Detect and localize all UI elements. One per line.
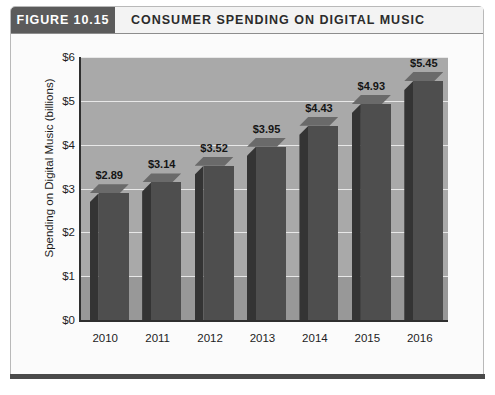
bar-front-face [99, 193, 129, 320]
bar-top-face [195, 157, 234, 166]
x-axis-tick-label: 2010 [79, 332, 131, 344]
figure-screenshot: FIGURE 10.15 CONSUMER SPENDING ON DIGITA… [0, 0, 495, 395]
bar [247, 138, 286, 320]
bar-value-label: $5.45 [398, 57, 449, 69]
bar-top-face [352, 95, 391, 104]
figure-header: FIGURE 10.15 CONSUMER SPENDING ON DIGITA… [11, 7, 483, 34]
y-axis-ticks: $0$1$2$3$4$5$6 [41, 57, 75, 320]
y-axis-tick-label: $3 [45, 183, 75, 195]
y-axis-tick-label: $2 [45, 226, 75, 238]
y-axis-tick-label: $6 [45, 51, 75, 63]
bar-front-face [361, 104, 391, 320]
x-axis-tick-label: 2014 [289, 332, 341, 344]
x-axis-tick-label: 2013 [236, 332, 288, 344]
bar-top-face [142, 173, 181, 182]
bar-front-face [413, 81, 443, 320]
x-axis-tick-label: 2011 [131, 332, 183, 344]
bar-value-label: $3.95 [241, 123, 292, 135]
bar-top-face [247, 138, 286, 147]
bar-value-label: $3.52 [189, 142, 240, 154]
bar-front-face [204, 166, 234, 320]
x-axis-tick-label: 2012 [184, 332, 236, 344]
bar-side-face [352, 104, 361, 320]
bar [142, 173, 181, 320]
chart-area: Spending on Digital Music (billions) $0$… [11, 34, 483, 376]
figure-card: FIGURE 10.15 CONSUMER SPENDING ON DIGITA… [10, 6, 484, 376]
bar-value-label: $2.89 [84, 169, 135, 181]
y-axis-tick-label: $1 [45, 270, 75, 282]
gridline [81, 101, 448, 102]
x-axis-tick-label: 2015 [341, 332, 393, 344]
bar-front-face [151, 182, 181, 320]
figure-number-badge: FIGURE 10.15 [11, 7, 115, 33]
bar-top-face [299, 117, 338, 126]
y-axis-tick-label: $0 [45, 314, 75, 326]
bar [299, 117, 338, 320]
figure-number-label: FIGURE 10.15 [17, 13, 110, 27]
figure-title: CONSUMER SPENDING ON DIGITAL MUSIC [131, 7, 425, 33]
bar-side-face [299, 126, 308, 320]
bar-side-face [247, 147, 256, 320]
y-axis-tick-label: $5 [45, 95, 75, 107]
bar [352, 95, 391, 320]
card-bottom-rule [10, 374, 485, 379]
bar-side-face [404, 81, 413, 320]
bar-top-face [404, 72, 443, 81]
bar [404, 72, 443, 320]
gridline [81, 57, 448, 58]
plot-region: $2.89$3.14$3.52$3.95$4.43$4.93$5.45 [79, 57, 448, 322]
bar-value-label: $4.93 [346, 80, 397, 92]
bar-side-face [90, 193, 99, 320]
bar-value-label: $3.14 [136, 158, 187, 170]
y-axis-tick-label: $4 [45, 139, 75, 151]
x-axis-tick-label: 2016 [394, 332, 446, 344]
bar-top-face [90, 184, 129, 193]
bar-front-face [256, 147, 286, 320]
bar-front-face [308, 126, 338, 320]
bar-value-label: $4.43 [293, 102, 344, 114]
bar [90, 184, 129, 320]
bar-side-face [195, 166, 204, 320]
bar [195, 157, 234, 320]
bar-side-face [142, 182, 151, 320]
